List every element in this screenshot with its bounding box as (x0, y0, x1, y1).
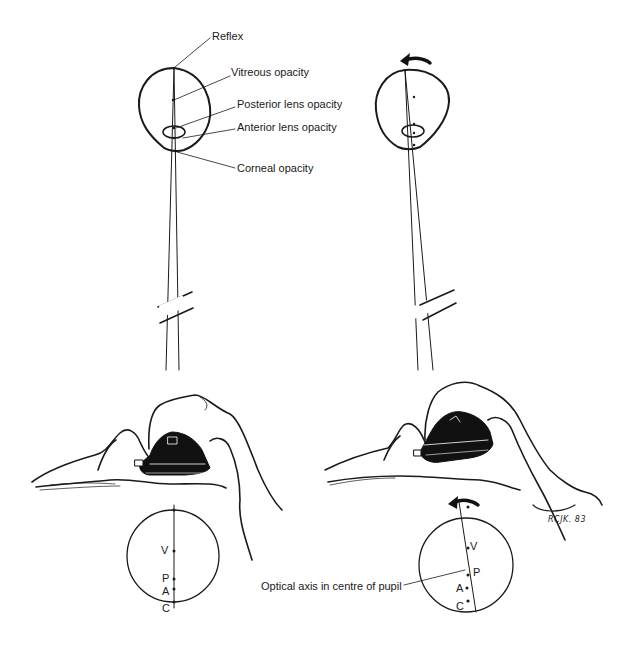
left-eyeball (139, 68, 210, 370)
label-posterior-lens-opacity: Posterior lens opacity (237, 98, 342, 110)
left-hand (149, 395, 282, 560)
right-pupil-diagram (404, 502, 513, 612)
label-optical-axis: Optical axis in centre of pupil (261, 580, 402, 592)
left-pupil-diagram (127, 505, 219, 608)
left-point-c: C (162, 602, 170, 614)
right-point-v: V (470, 540, 477, 552)
label-vitreous-opacity: Vitreous opacity (231, 66, 309, 78)
right-point-c: C (456, 600, 464, 612)
left-leader-lines (174, 38, 235, 168)
left-point-v: V (161, 544, 168, 556)
right-point-p: P (473, 566, 480, 578)
right-opacity-points (413, 96, 416, 147)
artist-signature: RCJK. 83 (548, 515, 586, 524)
label-anterior-lens-opacity: Anterior lens opacity (237, 121, 337, 133)
right-point-a: A (456, 582, 463, 594)
label-reflex: Reflex (212, 30, 243, 42)
pupil-rotation-arrow-icon (448, 496, 478, 509)
left-point-p: P (162, 572, 169, 584)
left-point-a: A (162, 585, 169, 597)
label-corneal-opacity: Corneal opacity (237, 162, 313, 174)
right-eyeball (376, 70, 449, 370)
rotation-arrow-icon (400, 53, 430, 66)
